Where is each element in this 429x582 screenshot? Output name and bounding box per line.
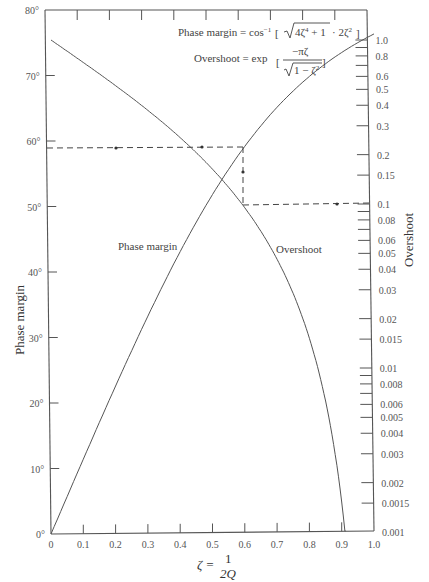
y-tick-label: 80° [25, 5, 39, 16]
y-right-tick-label: 0.08 [378, 215, 396, 226]
y-right-tick-label: 0.04 [378, 264, 396, 275]
x-tick-label: 0.5 [206, 539, 219, 550]
y-right-tick-label: 0.4 [376, 100, 389, 111]
y-right-tick-label: 0.06 [378, 235, 396, 246]
x-tick-label: 0.4 [174, 539, 187, 550]
x-tick-label: 0.1 [77, 539, 90, 550]
y-tick-label: 20° [30, 398, 44, 409]
x-tick-label: 0.8 [303, 539, 316, 550]
y-tick-label: 50° [27, 202, 41, 213]
y-right-tick-label: 0.03 [379, 285, 397, 296]
y-right-tick-label: 0.3 [377, 121, 390, 132]
svg-text:]: ] [356, 27, 360, 39]
y-right-tick-label: 0.004 [381, 428, 404, 439]
svg-text:[: [ [276, 56, 280, 68]
svg-text:[: [ [275, 27, 279, 39]
y-tick-label: 40° [28, 267, 42, 278]
y-right-tick-label: 0.015 [379, 334, 402, 345]
svg-text:]: ] [322, 56, 326, 68]
y-right-tick-label: 1.0 [375, 35, 388, 46]
y-right-tick-label: 0.008 [380, 379, 403, 390]
formula-phase-margin: Phase margin = cos−1 [ 4ζ4 + 1 · 2ζ2 ] [178, 23, 360, 39]
svg-text:−πζ: −πζ [292, 45, 309, 58]
y-right-tick-label: 0.02 [379, 314, 397, 325]
phase-margin-curve-label: Phase margin [118, 240, 178, 252]
y-axis-left-title: Phase margin [12, 284, 27, 355]
y-right-tick-label: 0.01 [380, 363, 398, 374]
svg-text:1 − ζ2: 1 − ζ2 [294, 64, 320, 77]
svg-text:4ζ4 + 1: 4ζ4 + 1 [295, 26, 326, 39]
y-right-tick-label: 0.2 [377, 150, 390, 161]
x-axis-title: ζ = 1 2Q [197, 551, 237, 581]
y-tick-label: 0° [36, 529, 45, 540]
svg-text:2Q: 2Q [220, 566, 237, 581]
chart-svg: 00.10.20.30.40.50.60.70.80.91.0 0°10°20°… [0, 0, 429, 582]
x-tick-label: 0.2 [109, 539, 122, 550]
x-tick-label: 0.9 [335, 539, 348, 550]
y-right-tick-label: 0.5 [376, 84, 389, 95]
dashed-annotation [47, 147, 370, 205]
overshoot-curve-label: Overshoot [276, 243, 322, 255]
y-tick-label: 60° [27, 136, 41, 147]
x-axis-ticks: 00.10.20.30.40.50.60.70.80.91.0 [49, 10, 381, 550]
x-tick-label: 0.7 [271, 539, 284, 550]
y-axis-right-title: Overshoot [401, 213, 416, 268]
svg-text:· 2ζ2: · 2ζ2 [332, 26, 352, 39]
x-tick-label: 0.6 [239, 539, 252, 550]
dashed-arrow-marks [114, 145, 338, 205]
svg-text:ζ =: ζ = [197, 557, 214, 572]
y-tick-label: 10° [30, 464, 44, 475]
y-right-tick-label: 0.001 [382, 527, 405, 538]
y-tick-label: 30° [29, 333, 43, 344]
y-right-tick-label: 0.8 [376, 51, 389, 62]
y-right-tick-label: 0.05 [378, 248, 396, 259]
y-right-tick-label: 0.0015 [382, 498, 410, 509]
svg-text:Phase margin = cos−1: Phase margin = cos−1 [178, 26, 272, 38]
y-axis-left-ticks: 0°10°20°30°40°50°60°70°80° [25, 5, 59, 540]
x-tick-label: 1.0 [368, 539, 381, 550]
y-right-tick-label: 0.002 [381, 478, 404, 489]
x-tick-label: 0 [49, 539, 54, 550]
y-right-tick-label: 0.15 [377, 170, 395, 181]
plot-frame [45, 10, 374, 534]
overshoot-curve [51, 40, 346, 531]
phase-margin-curve [51, 34, 374, 534]
y-axis-right-ticks: 1.00.80.60.50.40.30.20.150.10.080.060.05… [355, 35, 409, 538]
x-tick-label: 0.3 [142, 539, 155, 550]
y-tick-label: 70° [26, 71, 40, 82]
y-right-tick-label: 0.006 [380, 399, 403, 410]
y-right-tick-label: 0.1 [378, 199, 391, 210]
svg-text:Overshoot = exp: Overshoot = exp [194, 52, 268, 64]
svg-text:1: 1 [225, 551, 232, 566]
y-right-tick-label: 0.005 [380, 412, 403, 423]
y-right-tick-label: 0.003 [381, 449, 404, 460]
y-right-tick-label: 0.6 [376, 71, 389, 82]
formula-overshoot: Overshoot = exp [ −πζ 1 − ζ2 ] [194, 45, 326, 77]
